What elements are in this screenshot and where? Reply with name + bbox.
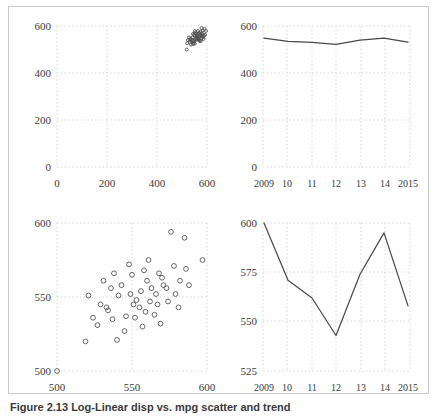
xticklabels-top-right: 2009 10 11 12 13 14 2015 bbox=[254, 178, 418, 189]
ytick-label: 575 bbox=[241, 266, 258, 278]
yticklabels-top-right: 600 400 200 0 bbox=[241, 20, 258, 173]
scatter-point bbox=[146, 258, 151, 263]
xtick-label: 2015 bbox=[398, 382, 418, 393]
xtick-label: 10 bbox=[282, 178, 292, 189]
xtick-label: 2009 bbox=[254, 178, 274, 189]
scatter-point bbox=[164, 286, 169, 291]
xtick-label: 550 bbox=[124, 381, 141, 393]
xtick-label: 0 bbox=[54, 177, 60, 189]
xticklabels-bottom-right: 2009 10 11 12 13 14 2015 bbox=[254, 382, 418, 393]
xtick-label: 11 bbox=[307, 382, 317, 393]
scatter-point bbox=[109, 286, 114, 291]
grid-top-right bbox=[263, 26, 410, 167]
scatter-point bbox=[149, 286, 154, 291]
scatter-point bbox=[158, 321, 163, 326]
scatter-point bbox=[137, 305, 142, 310]
scatter-point bbox=[148, 299, 153, 304]
chart-bottom-left: 600 550 500 500 550 600 bbox=[9, 201, 220, 395]
scatter-point bbox=[139, 289, 144, 294]
xtick-label: 600 bbox=[199, 177, 216, 189]
chart-bottom-right: 600 575 550 525 2009 10 11 12 13 14 2015 bbox=[220, 201, 430, 395]
scatter-point bbox=[145, 278, 150, 283]
scatter-point bbox=[98, 302, 103, 307]
ytick-label: 200 bbox=[241, 114, 258, 126]
panel-bottom-left: 600 550 500 500 550 600 bbox=[9, 201, 220, 395]
scatter-point bbox=[154, 292, 159, 297]
ytick-label: 200 bbox=[35, 114, 52, 126]
xtick-label: 500 bbox=[49, 381, 66, 393]
ytick-label: 0 bbox=[252, 161, 258, 173]
scatter-point bbox=[200, 258, 205, 263]
ytick-label: 600 bbox=[35, 217, 52, 229]
xticklabels-bottom-left: 500 550 600 bbox=[49, 381, 216, 393]
panel-top-right: 600 400 200 0 2009 10 11 12 13 14 2015 bbox=[220, 7, 430, 201]
ytick-label: 600 bbox=[241, 217, 258, 229]
yticklabels-bottom-left: 600 550 500 bbox=[35, 217, 52, 377]
scatter-point bbox=[155, 302, 160, 307]
scatter-point bbox=[110, 317, 115, 322]
scatter-point bbox=[133, 315, 138, 320]
scatter-point bbox=[142, 268, 147, 273]
xtick-label: 14 bbox=[380, 382, 390, 393]
yticklabels-top-left: 600 400 200 0 bbox=[35, 20, 52, 173]
ytick-label: 0 bbox=[46, 161, 52, 173]
scatter-point bbox=[91, 315, 96, 320]
xtick-label: 600 bbox=[199, 381, 216, 393]
xtick-label: 12 bbox=[331, 178, 341, 189]
scatter-point bbox=[140, 324, 145, 329]
yticklabels-bottom-right: 600 575 550 525 bbox=[241, 217, 258, 377]
xtick-label: 14 bbox=[380, 178, 390, 189]
xtick-label: 12 bbox=[331, 382, 341, 393]
scatter-point bbox=[176, 305, 181, 310]
scatter-point bbox=[152, 312, 157, 317]
ytick-label: 550 bbox=[241, 315, 258, 327]
scatter-point bbox=[95, 323, 100, 328]
xtick-label: 2009 bbox=[254, 382, 274, 393]
scatter-point bbox=[143, 309, 148, 314]
scatter-point bbox=[104, 305, 109, 310]
ytick-label: 600 bbox=[241, 20, 258, 32]
scatter-point bbox=[160, 275, 165, 280]
scatter-point bbox=[112, 271, 117, 276]
xtick-label: 200 bbox=[99, 177, 116, 189]
panel-bottom-right: 600 575 550 525 2009 10 11 12 13 14 2015 bbox=[220, 201, 430, 395]
scatter-point bbox=[106, 308, 111, 313]
scatter-point bbox=[122, 329, 127, 334]
chart-top-left: 600 400 200 0 0 200 400 600 bbox=[9, 7, 220, 201]
scatter-point bbox=[157, 271, 162, 276]
panel-top-left: 600 400 200 0 0 200 400 600 bbox=[9, 7, 220, 201]
scatter-point bbox=[134, 298, 139, 303]
scatter-point bbox=[185, 48, 188, 51]
ytick-label: 525 bbox=[241, 365, 258, 377]
scatter-point bbox=[119, 283, 124, 288]
chart-top-right: 600 400 200 0 2009 10 11 12 13 14 2015 bbox=[220, 7, 430, 201]
figure-caption: Figure 2.13 Log-Linear disp vs. mpg scat… bbox=[10, 400, 430, 415]
scatter-point bbox=[173, 292, 178, 297]
grid-top-left bbox=[57, 26, 207, 167]
xtick-label: 13 bbox=[356, 178, 366, 189]
figure-container: 600 400 200 0 0 200 400 600 bbox=[8, 6, 429, 394]
scatter-point bbox=[172, 264, 177, 269]
xtick-label: 400 bbox=[149, 177, 166, 189]
ytick-label: 600 bbox=[35, 20, 52, 32]
scatter-point bbox=[178, 278, 183, 283]
ytick-label: 400 bbox=[35, 67, 52, 79]
scatter-point bbox=[101, 278, 106, 283]
scatter-point bbox=[83, 339, 88, 344]
xtick-label: 10 bbox=[282, 382, 292, 393]
scatter-point bbox=[115, 338, 120, 343]
scatter-point bbox=[166, 299, 171, 304]
ytick-label: 550 bbox=[35, 291, 52, 303]
scatter-point bbox=[169, 229, 174, 234]
scatter-point bbox=[124, 314, 129, 319]
xtick-label: 2015 bbox=[398, 178, 418, 189]
scatter-points-top-left bbox=[185, 27, 207, 51]
scatter-point bbox=[187, 283, 192, 288]
scatter-point bbox=[128, 292, 133, 297]
ytick-label: 400 bbox=[241, 67, 258, 79]
grid-bottom-left bbox=[57, 223, 207, 371]
ytick-label: 500 bbox=[35, 365, 52, 377]
xtick-label: 13 bbox=[356, 382, 366, 393]
xtick-label: 11 bbox=[307, 178, 317, 189]
scatter-point bbox=[182, 235, 187, 240]
